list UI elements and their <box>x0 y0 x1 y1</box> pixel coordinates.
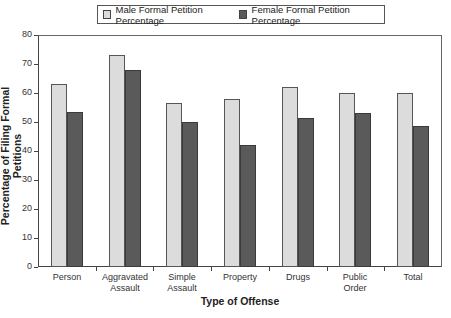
female-swatch-icon <box>239 10 247 19</box>
bar-male <box>224 99 240 267</box>
x-tick <box>327 267 328 271</box>
x-tick <box>153 267 154 271</box>
x-category-label: PublicOrder <box>325 272 385 294</box>
bar-male <box>109 55 125 267</box>
legend-female-label: Female Formal Petition Percentage <box>252 4 370 26</box>
y-tick-label: 70 <box>14 58 32 68</box>
y-tick-label: 60 <box>14 87 32 97</box>
bar-female <box>182 122 198 267</box>
legend: Male Formal Petition Percentage Female F… <box>97 5 385 24</box>
bar-female <box>240 145 256 267</box>
x-category-label: Person <box>37 272 97 283</box>
bar-female <box>355 113 371 267</box>
y-tick <box>34 267 38 268</box>
x-tick <box>269 267 270 271</box>
legend-item-male: Male Formal Petition Percentage <box>103 4 225 26</box>
y-tick-label: 20 <box>14 203 32 213</box>
x-category-label: SimpleAssault <box>152 272 212 294</box>
x-tick <box>211 267 212 271</box>
legend-male-label: Male Formal Petition Percentage <box>116 4 226 26</box>
bar-male <box>282 87 298 267</box>
y-tick-label: 10 <box>14 232 32 242</box>
x-axis-title: Type of Offense <box>38 295 442 307</box>
bar-male <box>339 93 355 267</box>
x-tick <box>96 267 97 271</box>
y-tick-label: 40 <box>14 145 32 155</box>
x-tick <box>384 267 385 271</box>
y-tick-label: 0 <box>14 261 32 271</box>
bar-female <box>125 70 141 267</box>
legend-item-female: Female Formal Petition Percentage <box>239 4 370 26</box>
bar-female <box>298 118 314 267</box>
x-category-label: Total <box>383 272 443 283</box>
y-tick-label: 50 <box>14 116 32 126</box>
y-tick-label: 30 <box>14 174 32 184</box>
x-category-label: Property <box>210 272 270 283</box>
x-category-label: Drugs <box>268 272 328 283</box>
male-swatch-icon <box>103 10 111 19</box>
bar-male <box>397 93 413 267</box>
bar-male <box>166 103 182 267</box>
y-tick-label: 80 <box>14 29 32 39</box>
bar-male <box>51 84 67 267</box>
bar-female <box>67 112 83 267</box>
bar-female <box>413 126 429 267</box>
x-category-label: AggravatedAssault <box>95 272 155 294</box>
